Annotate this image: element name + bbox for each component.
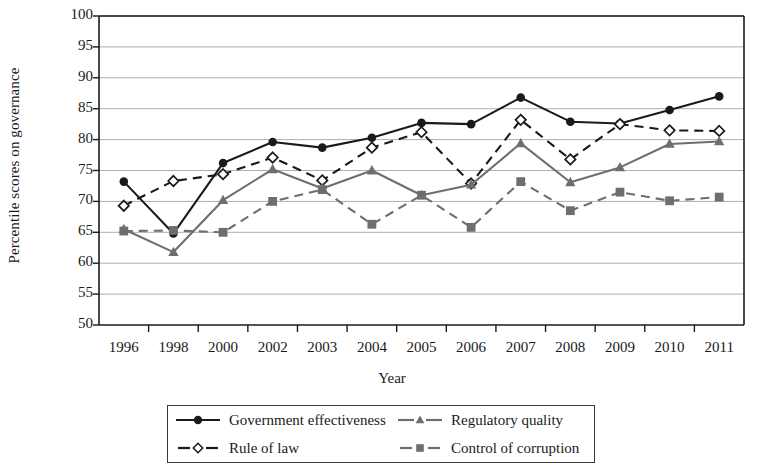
x-axis-title: Year [0, 370, 758, 387]
legend-swatch-control-of-corruption [396, 440, 444, 456]
data-point-marker [615, 119, 625, 129]
data-point-marker [665, 106, 674, 115]
y-axis-tick-label: 90 [47, 68, 93, 85]
data-point-marker [219, 159, 228, 168]
data-point-marker [467, 223, 476, 232]
data-point-marker [367, 142, 377, 152]
x-axis-tick-label: 2011 [689, 339, 749, 356]
legend-label: Government effectiveness [229, 413, 386, 428]
data-point-marker [318, 143, 327, 152]
y-axis-tick-label: 85 [47, 99, 93, 116]
data-point-marker [168, 176, 178, 186]
series-line [124, 182, 719, 233]
data-point-marker [318, 185, 327, 194]
data-point-marker [268, 164, 278, 173]
y-axis-tick-label: 65 [47, 222, 93, 239]
y-axis-tick-label: 60 [47, 253, 93, 270]
y-axis-tick-label: 50 [47, 315, 93, 332]
data-point-marker [664, 125, 674, 135]
data-point-marker [169, 226, 178, 235]
y-axis-tick-label: 80 [47, 130, 93, 147]
data-point-marker [268, 138, 277, 147]
data-point-marker [367, 220, 376, 229]
legend-label: Regulatory quality [451, 413, 563, 428]
data-point-marker [219, 228, 228, 237]
data-point-marker [267, 152, 277, 162]
data-point-marker [566, 206, 575, 215]
data-point-marker [218, 195, 228, 204]
data-point-marker [516, 177, 525, 186]
legend-item-government-effectiveness: Government effectiveness [174, 412, 396, 428]
legend-item-control-of-corruption: Control of corruption [396, 440, 602, 456]
data-point-marker [268, 197, 277, 206]
legend-swatch-rule-of-law [174, 440, 222, 456]
legend-swatch-government-effectiveness [174, 412, 222, 428]
data-point-marker [467, 120, 476, 129]
y-axis-tick-label: 95 [47, 37, 93, 54]
data-point-marker [367, 165, 377, 174]
chart-figure: Percentile scores on governance Year Gov… [0, 0, 758, 471]
data-point-marker [714, 126, 724, 136]
data-point-marker [665, 196, 674, 205]
legend-item-rule-of-law: Rule of law [174, 440, 396, 456]
series-government-effectiveness [120, 92, 724, 238]
series-control-of-corruption [119, 177, 723, 236]
data-point-marker [417, 191, 426, 200]
data-point-marker [715, 193, 724, 202]
legend-swatch-regulatory-quality [396, 412, 444, 428]
legend-item-regulatory-quality: Regulatory quality [396, 412, 602, 428]
data-point-marker [566, 117, 575, 126]
data-point-marker [715, 92, 724, 101]
chart-legend: Government effectiveness Regulatory qual… [167, 405, 595, 463]
data-point-marker [119, 227, 128, 236]
y-axis-tick-label: 100 [47, 6, 93, 23]
data-point-marker [416, 127, 426, 137]
data-point-marker [516, 93, 525, 102]
legend-label: Rule of law [229, 441, 299, 456]
data-point-marker [119, 201, 129, 211]
data-point-marker [120, 177, 129, 186]
y-axis-tick-label: 75 [47, 161, 93, 178]
data-point-marker [616, 188, 625, 197]
series-line [124, 96, 719, 233]
data-point-marker [368, 133, 377, 142]
y-axis-tick-label: 70 [47, 191, 93, 208]
legend-label: Control of corruption [451, 441, 579, 456]
y-axis-tick-label: 55 [47, 284, 93, 301]
